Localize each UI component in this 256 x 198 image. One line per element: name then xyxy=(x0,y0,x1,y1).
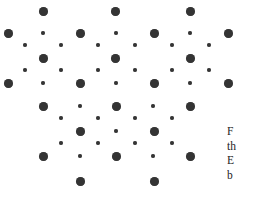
caption-line-3: E xyxy=(227,153,256,168)
lattice-dot-large xyxy=(39,54,48,63)
lattice-dot-small xyxy=(23,43,27,47)
lattice-dot-large xyxy=(76,79,85,88)
lattice-dot-small xyxy=(41,31,45,35)
lattice-dot-large xyxy=(150,127,159,136)
lattice-dot-large xyxy=(76,29,85,38)
lattice-dot-large xyxy=(150,177,159,186)
lattice-dot-small xyxy=(207,43,211,47)
lattice-dot-small xyxy=(151,104,155,108)
lattice-dot-small xyxy=(133,116,137,120)
lattice-dot-small xyxy=(170,141,174,145)
lattice-dot-small xyxy=(170,43,174,47)
lattice-dot-large xyxy=(186,102,195,111)
caption-line-4: b xyxy=(227,168,256,183)
lattice-dot-large xyxy=(76,177,85,186)
lattice-dot-large xyxy=(39,7,48,16)
lattice-dot-large xyxy=(112,102,121,111)
figure-caption: F th E b xyxy=(227,124,256,182)
lattice-dot-small xyxy=(114,31,118,35)
lattice-dot-small xyxy=(207,68,211,72)
lattice-dot-small xyxy=(188,31,192,35)
lattice-dot-small xyxy=(133,68,137,72)
lattice-dot-large xyxy=(39,102,48,111)
lattice-dot-small xyxy=(41,81,45,85)
lattice-dot-small xyxy=(59,116,63,120)
lattice-dot-large xyxy=(4,29,13,38)
lattice-dot-large xyxy=(150,29,159,38)
lattice-dot-large xyxy=(111,54,120,63)
lattice-dot-small xyxy=(170,116,174,120)
lattice-dot-small xyxy=(133,43,137,47)
lattice-dot-large xyxy=(4,79,13,88)
lattice-dot-small xyxy=(59,68,63,72)
lattice-dot-small xyxy=(96,43,100,47)
lattice-dot-large xyxy=(111,7,120,16)
lattice-dot-small xyxy=(23,68,27,72)
lattice-dot-large xyxy=(224,79,233,88)
lattice-dot-large xyxy=(186,152,195,161)
lattice-dot-small xyxy=(133,141,137,145)
lattice-dot-small xyxy=(78,154,82,158)
caption-line-2: th xyxy=(227,139,256,154)
lattice-dot-small xyxy=(188,81,192,85)
lattice-dot-large xyxy=(39,152,48,161)
lattice-dot-small xyxy=(59,43,63,47)
lattice-dot-small xyxy=(78,104,82,108)
lattice-dot-large xyxy=(112,152,121,161)
lattice-dot-small xyxy=(151,154,155,158)
lattice-dot-small xyxy=(114,129,118,133)
lattice-dot-small xyxy=(170,68,174,72)
caption-line-1: F xyxy=(227,124,256,139)
lattice-dot-large xyxy=(150,79,159,88)
lattice-dot-large xyxy=(224,29,233,38)
lattice-dot-small xyxy=(114,81,118,85)
lattice-dot-small xyxy=(96,68,100,72)
lattice-dot-small xyxy=(96,141,100,145)
lattice-dot-large xyxy=(76,127,85,136)
lattice-dot-large xyxy=(186,54,195,63)
lattice-dot-small xyxy=(59,141,63,145)
dot-lattice-plot xyxy=(0,0,256,198)
lattice-dot-small xyxy=(96,116,100,120)
lattice-dot-large xyxy=(186,7,195,16)
figure-root: F th E b xyxy=(0,0,256,198)
